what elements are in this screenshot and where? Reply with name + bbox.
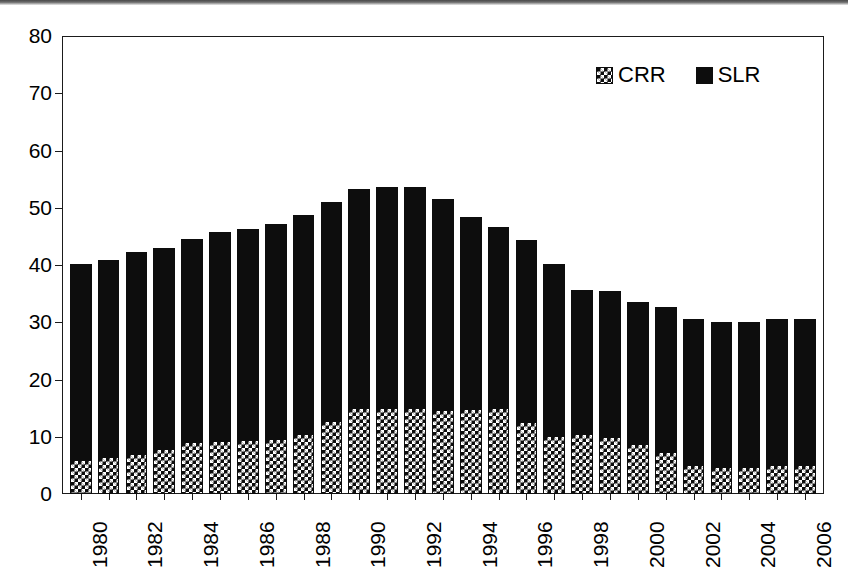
x-tick-label: 1988 [312,521,333,568]
x-tick-mark [721,494,722,500]
x-tick-label: 2000 [646,521,667,568]
x-tick-mark [694,494,695,500]
x-tick-mark [164,494,165,500]
x-tick-mark [443,494,444,500]
x-tick-label: 2006 [813,521,834,568]
legend-item-slr: SLR [696,64,761,86]
x-tick-label: 1986 [256,521,277,568]
x-tick-label: 1990 [367,521,388,568]
x-tick-label: 1998 [590,521,611,568]
x-tick-mark [582,494,583,500]
x-tick-mark [81,494,82,500]
x-tick-mark [666,494,667,500]
x-tick-mark [192,494,193,500]
x-tick-mark [471,494,472,500]
x-tick-label: 1996 [534,521,555,568]
x-axis: 1980198219841986198819901992199419961998… [0,0,848,584]
x-tick-mark [638,494,639,500]
x-tick-mark [499,494,500,500]
x-tick-mark [109,494,110,500]
x-tick-mark [136,494,137,500]
x-tick-label: 1984 [200,521,221,568]
x-tick-mark [304,494,305,500]
x-tick-mark [554,494,555,500]
x-tick-mark [220,494,221,500]
x-tick-mark [276,494,277,500]
chart-legend: CRR SLR [596,64,760,86]
x-tick-label: 1992 [423,521,444,568]
x-tick-mark [359,494,360,500]
legend-swatch-crr-icon [596,67,613,84]
x-tick-mark [610,494,611,500]
x-tick-mark [526,494,527,500]
x-tick-mark [248,494,249,500]
legend-label-crr: CRR [618,64,666,86]
x-tick-label: 1982 [144,521,165,568]
legend-item-crr: CRR [596,64,666,86]
x-tick-label: 2002 [702,521,723,568]
x-tick-mark [415,494,416,500]
x-tick-mark [331,494,332,500]
x-tick-label: 2004 [757,521,778,568]
x-tick-mark [749,494,750,500]
x-tick-label: 1994 [479,521,500,568]
x-tick-mark [777,494,778,500]
legend-label-slr: SLR [718,64,761,86]
legend-swatch-slr-icon [696,67,713,84]
x-tick-mark [387,494,388,500]
x-tick-label: 1980 [89,521,110,568]
x-tick-mark [805,494,806,500]
stacked-bar-chart: 01020304050607080 1980198219841986198819… [0,0,848,584]
